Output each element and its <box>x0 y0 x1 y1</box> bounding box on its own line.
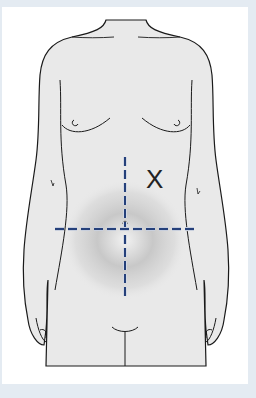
torso-illustration <box>0 0 256 398</box>
quadrant-marker-x: X <box>146 166 163 192</box>
